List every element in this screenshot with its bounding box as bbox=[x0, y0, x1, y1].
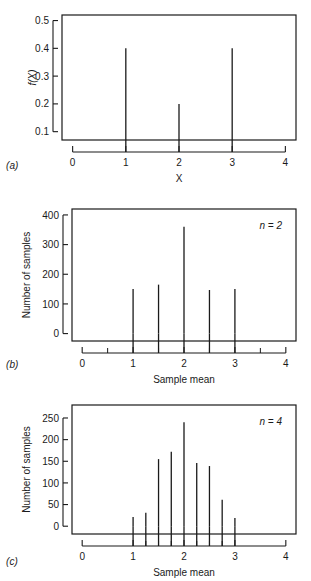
y-axis-title: f(X) bbox=[27, 69, 38, 85]
x-tick-label: 1 bbox=[130, 358, 136, 369]
x-tick-label: 0 bbox=[70, 157, 76, 168]
x-tick-label: 3 bbox=[229, 157, 235, 168]
panel-c-plot: 05010015020025001234Sample meanNumber of… bbox=[0, 387, 311, 581]
sample-size-annotation: n = 4 bbox=[259, 416, 282, 427]
y-tick-label: 0.2 bbox=[35, 98, 49, 109]
y-tick-label: 150 bbox=[42, 456, 59, 467]
panel-c: (c) 05010015020025001234Sample meanNumbe… bbox=[0, 387, 311, 581]
x-axis-title: Sample mean bbox=[153, 374, 215, 385]
y-tick-label: 0.5 bbox=[35, 15, 49, 26]
y-tick-label: 300 bbox=[42, 239, 59, 250]
x-tick-label: 4 bbox=[283, 358, 289, 369]
x-tick-label: 4 bbox=[283, 551, 289, 562]
y-tick-label: 0.1 bbox=[35, 126, 49, 137]
y-axis-title: Number of samples bbox=[21, 232, 32, 319]
x-tick-label: 4 bbox=[283, 157, 289, 168]
y-axis-title: Number of samples bbox=[21, 426, 32, 513]
y-tick-label: 50 bbox=[48, 499, 60, 510]
x-tick-label: 0 bbox=[79, 358, 85, 369]
y-tick-label: 100 bbox=[42, 299, 59, 310]
y-tick-label: 100 bbox=[42, 478, 59, 489]
panel-b-plot: 010020030040001234Sample meanNumber of s… bbox=[0, 193, 311, 387]
figure-sampling-distributions: (a) 0.10.20.30.40.501234Xf(X) (b) 010020… bbox=[0, 0, 311, 581]
x-tick-label: 3 bbox=[232, 358, 238, 369]
x-tick-label: 2 bbox=[181, 358, 187, 369]
y-tick-label: 200 bbox=[42, 269, 59, 280]
x-tick-label: 1 bbox=[130, 551, 136, 562]
x-tick-label: 0 bbox=[79, 551, 85, 562]
sample-size-annotation: n = 2 bbox=[259, 220, 282, 231]
y-tick-label: 400 bbox=[42, 210, 59, 221]
x-tick-label: 1 bbox=[123, 157, 129, 168]
x-tick-label: 2 bbox=[176, 157, 182, 168]
y-tick-label: 250 bbox=[42, 413, 59, 424]
panel-a: (a) 0.10.20.30.40.501234Xf(X) bbox=[0, 0, 311, 193]
y-tick-label: 0 bbox=[53, 328, 59, 339]
y-tick-label: 0 bbox=[53, 521, 59, 532]
x-axis-title: Sample mean bbox=[153, 567, 215, 578]
x-axis-title: X bbox=[176, 173, 183, 184]
panel-a-plot: 0.10.20.30.40.501234Xf(X) bbox=[0, 0, 311, 193]
panel-b: (b) 010020030040001234Sample meanNumber … bbox=[0, 193, 311, 387]
x-tick-label: 2 bbox=[181, 551, 187, 562]
y-tick-label: 0.4 bbox=[35, 43, 49, 54]
x-tick-label: 3 bbox=[232, 551, 238, 562]
y-tick-label: 200 bbox=[42, 434, 59, 445]
